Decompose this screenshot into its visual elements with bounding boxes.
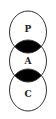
label-p: P [25, 24, 32, 34]
label-c: C [24, 89, 31, 99]
venn-diagram: P A C [0, 0, 56, 119]
label-a: A [24, 56, 33, 66]
